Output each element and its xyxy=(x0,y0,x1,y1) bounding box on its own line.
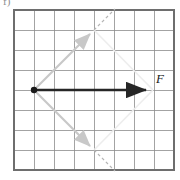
resultant-force-vector xyxy=(31,87,146,93)
faint-parallel-lower-line xyxy=(94,90,153,150)
force-vector-label: F xyxy=(156,72,164,85)
diagram-canvas xyxy=(0,0,180,180)
vector-origin-dot xyxy=(31,87,37,93)
vector-diagram: F f) xyxy=(0,0,180,180)
part-label: f) xyxy=(3,0,17,7)
dashed-upper-continuation-line xyxy=(94,9,115,30)
component-down-right-vector xyxy=(34,90,90,146)
component-up-right-vector xyxy=(34,34,90,90)
dashed-lower-continuation-line xyxy=(94,150,115,171)
faint-parallel-upper-line xyxy=(94,30,153,90)
